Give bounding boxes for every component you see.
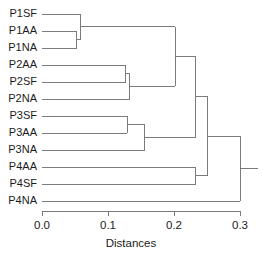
- leaf-label-p1na: P1NA: [8, 41, 37, 53]
- x-axis-tick-labels-group: 0.00.10.20.3: [34, 219, 248, 231]
- x-axis-tick-label-0: 0.0: [34, 219, 50, 231]
- leaf-label-p4na: P4NA: [8, 194, 37, 206]
- leaf-label-p1sf: P1SF: [9, 7, 37, 19]
- dendrogram-canvas: P1SFP1AAP1NAP2AAP2SFP2NAP3SFP3AAP3NAP4AA…: [0, 0, 262, 260]
- dendrogram-links-group: [42, 14, 258, 201]
- x-axis-title: Distances: [106, 237, 157, 249]
- leaf-labels-group: P1SFP1AAP1NAP2AAP2SFP2NAP3SFP3AAP3NAP4AA…: [8, 7, 37, 206]
- leaf-label-p4sf: P4SF: [9, 177, 37, 189]
- leaf-label-p2aa: P2AA: [9, 58, 38, 70]
- leaf-label-p1aa: P1AA: [9, 24, 38, 36]
- leaf-label-p4aa: P4AA: [9, 160, 38, 172]
- leaf-label-p2sf: P2SF: [9, 75, 37, 87]
- leaf-label-p3sf: P3SF: [9, 109, 37, 121]
- x-axis-group: [42, 211, 240, 216]
- leaf-label-p3na: P3NA: [8, 143, 37, 155]
- x-axis-tick-label-3: 0.3: [232, 219, 248, 231]
- leaf-label-p2na: P2NA: [8, 92, 37, 104]
- x-axis-tick-label-1: 0.1: [100, 219, 116, 231]
- dendrogram-figure: P1SFP1AAP1NAP2AAP2SFP2NAP3SFP3AAP3NAP4AA…: [0, 0, 262, 260]
- leaf-label-p3aa: P3AA: [9, 126, 38, 138]
- x-axis-tick-label-2: 0.2: [166, 219, 182, 231]
